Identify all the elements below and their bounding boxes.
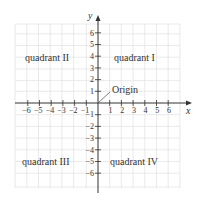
svg-text:1: 1: [109, 106, 113, 115]
svg-text:−6: −6: [85, 169, 94, 178]
origin-label: Origin: [112, 84, 138, 95]
coordinate-plane: −6 −5 −4 −3 −2 −1 1 2 3 4 5 6 6 5 4 3 2 …: [0, 0, 202, 202]
svg-text:−5: −5: [34, 106, 43, 115]
quadrant-iv-label: quadrant IV: [110, 156, 159, 167]
quadrant-iii-label: quadrant III: [22, 156, 69, 167]
quadrant-ii-label: quadrant II: [25, 52, 69, 63]
svg-text:−5: −5: [85, 157, 94, 166]
svg-text:6: 6: [167, 106, 171, 115]
svg-text:−4: −4: [85, 146, 94, 155]
svg-text:−2: −2: [85, 122, 94, 131]
svg-text:2: 2: [120, 106, 124, 115]
svg-text:−3: −3: [57, 106, 66, 115]
svg-text:−6: −6: [22, 106, 31, 115]
quadrant-i-label: quadrant I: [114, 52, 155, 63]
y-axis-arrow-icon: [96, 15, 101, 21]
svg-text:2: 2: [90, 75, 94, 84]
svg-text:4: 4: [144, 106, 148, 115]
x-axis-label: x: [185, 105, 191, 116]
svg-text:1: 1: [90, 87, 94, 96]
svg-text:4: 4: [90, 52, 94, 61]
svg-text:5: 5: [90, 40, 94, 49]
svg-text:−1: −1: [85, 110, 94, 119]
x-tick-labels: −6 −5 −4 −3 −2 −1 1 2 3 4 5 6: [22, 106, 171, 115]
svg-text:−4: −4: [46, 106, 55, 115]
svg-text:5: 5: [155, 106, 159, 115]
svg-text:6: 6: [90, 29, 94, 38]
svg-text:3: 3: [90, 64, 94, 73]
origin-pointer: [99, 92, 111, 103]
svg-text:−2: −2: [69, 106, 78, 115]
svg-text:−3: −3: [85, 134, 94, 143]
y-axis-label: y: [87, 10, 93, 21]
svg-text:3: 3: [132, 106, 136, 115]
